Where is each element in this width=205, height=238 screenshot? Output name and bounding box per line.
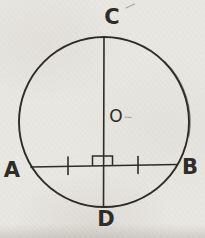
- label-d: D: [97, 207, 114, 231]
- paper-speck: [126, 4, 135, 8]
- label-c: C: [104, 5, 119, 29]
- diameter-line-cd: [104, 37, 105, 207]
- paper-speck: [125, 117, 131, 118]
- label-o: O: [109, 106, 122, 126]
- circle-chord-diagram: CDABO: [0, 0, 205, 238]
- label-b: B: [182, 155, 198, 179]
- label-a: A: [4, 158, 21, 182]
- paper-background: CDABO: [0, 0, 205, 238]
- right-angle-mark: [93, 156, 113, 166]
